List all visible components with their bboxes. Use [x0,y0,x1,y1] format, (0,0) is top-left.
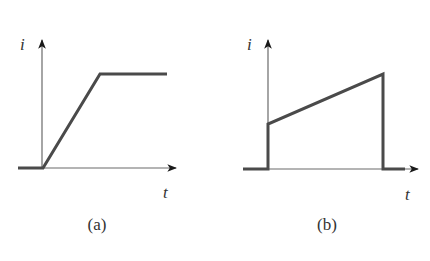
graph-a: i t (a) [18,35,176,234]
graph-a-y-label: i [20,35,25,54]
graph-b-caption: (b) [317,215,337,234]
graph-a-x-label: t [163,183,169,202]
graph-b-waveform [243,74,405,169]
graph-a-waveform [18,74,167,168]
graph-b: i t (b) [243,35,418,234]
graph-a-caption: (a) [88,215,107,234]
graph-b-y-label: i [247,35,252,54]
graph-b-x-label: t [405,185,411,204]
diagram-canvas: i t (a) i t (b) [0,0,430,261]
